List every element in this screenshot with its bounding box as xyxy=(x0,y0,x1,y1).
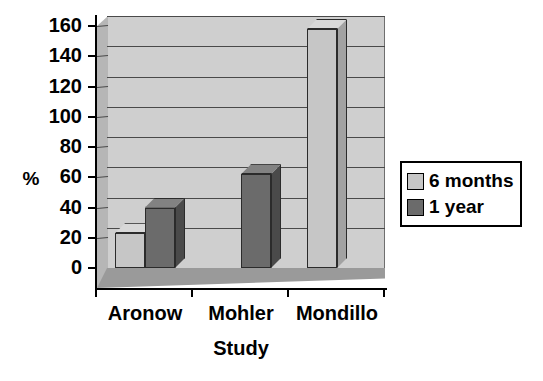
legend: 6 months1 year xyxy=(400,161,522,227)
legend-item: 1 year xyxy=(407,194,513,220)
bar xyxy=(241,164,271,268)
bar-side-face xyxy=(175,198,185,269)
bar-front-face xyxy=(307,29,337,268)
y-axis-tick-labels: 020406080100120140160 xyxy=(36,0,82,381)
x-axis-line xyxy=(95,288,387,290)
legend-item: 6 months xyxy=(407,168,513,194)
x-axis-tick-mark xyxy=(287,288,289,297)
bar-front-face xyxy=(241,174,271,268)
plot-floor xyxy=(97,268,385,288)
bar-front-face xyxy=(115,233,145,268)
y-axis-tick-label: 80 xyxy=(36,136,82,156)
bar xyxy=(145,198,175,269)
x-axis-tick-mark xyxy=(95,288,97,297)
y-axis-tick-label: 120 xyxy=(36,76,82,96)
light-gray-swatch-icon xyxy=(407,173,424,190)
gridline-side-connector xyxy=(97,146,109,159)
dark-gray-swatch-icon xyxy=(407,199,424,216)
x-axis-tick-mark xyxy=(191,288,193,297)
bar-chart: % 020406080100120140160 AronowMohlerMond… xyxy=(0,0,543,381)
y-axis-tick-label: 100 xyxy=(36,106,82,126)
bar-side-face xyxy=(271,164,281,268)
legend-item-label: 6 months xyxy=(429,170,513,192)
x-axis-category-label: Mondillo xyxy=(289,302,385,325)
plot-area xyxy=(97,16,385,288)
gridline-side-connector xyxy=(97,176,109,189)
gridline-side-connector xyxy=(97,206,109,219)
gridline-side-connector xyxy=(97,237,109,250)
y-axis-tick-label: 20 xyxy=(36,227,82,247)
y-axis-tick-label: 0 xyxy=(36,257,82,277)
gridline-side-connector xyxy=(97,25,109,38)
bar-front-face xyxy=(145,208,175,269)
x-axis-title: Study xyxy=(97,337,385,360)
y-axis-tick-label: 40 xyxy=(36,197,82,217)
y-axis-tick-label: 160 xyxy=(36,15,82,35)
gridline-side-connector xyxy=(97,55,109,68)
y-axis-tick-label: 140 xyxy=(36,45,82,65)
x-axis-category-label: Mohler xyxy=(193,302,289,325)
x-axis-tick-mark xyxy=(383,288,385,297)
bar xyxy=(307,19,337,268)
y-axis-tick-label: 60 xyxy=(36,166,82,186)
legend-item-label: 1 year xyxy=(429,196,484,218)
x-axis-category-label: Aronow xyxy=(97,302,193,325)
gridline-side-connector xyxy=(97,116,109,129)
gridline xyxy=(107,16,385,17)
bar-side-face xyxy=(337,19,347,268)
gridline-side-connector xyxy=(97,85,109,98)
bar xyxy=(115,223,145,268)
